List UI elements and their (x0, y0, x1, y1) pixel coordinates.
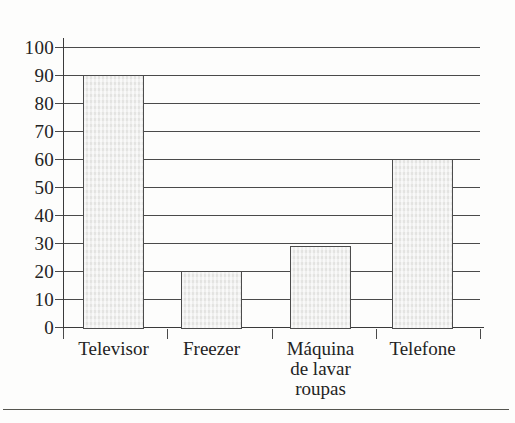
y-axis-tick-label: 100 (25, 38, 54, 57)
bar (181, 271, 242, 329)
y-axis-tick-label: 10 (34, 290, 54, 309)
y-axis-tick-label: 20 (34, 262, 54, 281)
bar-chart-figure: 1009080706050403020100 TelevisorFreezerM… (0, 0, 515, 423)
x-axis-tick-mark (272, 329, 273, 339)
x-axis-category-label: Telefone (363, 339, 483, 359)
bar (290, 246, 351, 329)
x-axis-tick-mark (480, 329, 481, 339)
y-axis-tick-label: 60 (34, 150, 54, 169)
page-divider-rule (3, 409, 509, 410)
y-axis-tick-label: 40 (34, 206, 54, 225)
x-axis-tick-mark (63, 329, 64, 339)
y-axis-tick-label: 70 (34, 122, 54, 141)
gridline (63, 47, 480, 48)
y-axis-tick-label: 30 (34, 234, 54, 253)
bar (83, 75, 144, 329)
bar (392, 159, 453, 329)
y-axis-tick-label: 0 (44, 318, 54, 337)
x-axis-tick-mark (376, 329, 377, 339)
x-axis-tick-mark (167, 329, 168, 339)
y-axis-tick-label: 90 (34, 66, 54, 85)
y-axis-tick-label: 50 (34, 178, 54, 197)
plot-area: 1009080706050403020100 TelevisorFreezerM… (0, 0, 515, 423)
x-axis-category-label: Freezer (152, 339, 272, 359)
y-axis-tick-label: 80 (34, 94, 54, 113)
y-axis-spine (63, 38, 64, 330)
